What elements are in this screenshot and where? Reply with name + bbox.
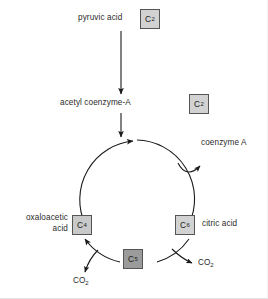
carbon-box-letter: C <box>128 254 134 264</box>
label-citric-acid: citric acid <box>202 219 237 229</box>
arrow-to-co2-left <box>85 250 98 272</box>
label-co2-left: CO2 <box>73 276 89 286</box>
cycle-arc-top-right <box>137 140 195 224</box>
cycle-arc-bottom-left <box>85 239 120 262</box>
carbon-box-letter: C <box>180 220 186 230</box>
carbon-box-acetyl-c2: C2 <box>189 94 209 114</box>
label-acetyl-coenzyme-a: acetyl coenzyme-A <box>60 98 131 108</box>
carbon-box-subscript: 6 <box>187 222 191 228</box>
cycle-arc-left <box>80 141 133 224</box>
carbon-box-letter: C <box>145 14 151 24</box>
carbon-box-subscript: 2 <box>201 101 205 107</box>
label-oxaloacetic-acid-line1: oxaloacetic <box>26 213 68 222</box>
label-oxaloacetic-acid: oxaloacetic acid <box>10 213 68 234</box>
carbon-box-pyruvic-c2: C2 <box>140 9 160 29</box>
label-co2-right: CO2 <box>198 258 214 268</box>
carbon-box-citric-c6: C6 <box>175 215 195 235</box>
carbon-box-subscript: 2 <box>152 16 156 22</box>
co2-left-text: CO <box>73 276 85 285</box>
label-coenzyme-a: coenzyme A <box>201 138 247 148</box>
krebs-cycle-diagram: pyruvic acid acetyl coenzyme-A coenzyme … <box>0 0 268 299</box>
carbon-box-letter: C <box>194 99 200 109</box>
carbon-box-oxaloacetic-c4: C4 <box>72 215 92 235</box>
carbon-box-c5: C5 <box>123 249 143 269</box>
co2-right-text: CO <box>198 258 210 267</box>
carbon-box-subscript: 4 <box>84 222 88 228</box>
arrow-to-coenzyme-a <box>178 163 200 172</box>
carbon-box-subscript: 5 <box>135 256 139 262</box>
carbon-box-letter: C <box>77 220 83 230</box>
co2-right-subscript: 2 <box>210 262 213 268</box>
label-oxaloacetic-acid-line2: acid <box>53 224 68 233</box>
arrow-to-co2-right <box>172 249 192 263</box>
co2-left-subscript: 2 <box>85 280 88 286</box>
label-pyruvic-acid: pyruvic acid <box>78 13 122 23</box>
